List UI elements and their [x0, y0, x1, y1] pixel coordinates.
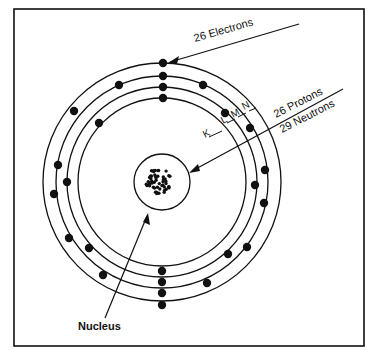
electron-dot: [203, 279, 211, 287]
electron-dot: [246, 124, 254, 132]
electron-dot: [50, 190, 58, 198]
electron-dot: [65, 234, 73, 242]
electron-dot: [158, 278, 166, 286]
electron-dot: [159, 94, 167, 102]
electron-dot: [224, 250, 232, 258]
electron-dot: [95, 119, 103, 127]
arrowhead-icon: [168, 56, 179, 64]
electron-dot: [115, 81, 123, 89]
electron-dot: [199, 81, 207, 89]
electron-dot: [243, 243, 251, 251]
electron-dot: [159, 72, 167, 80]
electron-dot: [261, 166, 269, 174]
electron-dot: [158, 301, 166, 309]
nucleus-label: Nucleus: [78, 320, 121, 332]
electron-dot: [159, 83, 167, 91]
electrons-callout: 26 Electrons: [168, 15, 299, 64]
electron-dot: [99, 271, 107, 279]
atom-diagram: 26 Electrons 26 Protons 29 Neutrons Nucl…: [0, 0, 377, 350]
arrowhead-icon: [189, 164, 200, 173]
electron-dot: [251, 181, 259, 189]
electron-dot: [260, 199, 268, 207]
electron-dot: [159, 59, 167, 67]
nucleon-cluster: [145, 169, 172, 196]
electron-dot: [85, 244, 93, 252]
shell-m-label: M: [229, 106, 242, 120]
electron-dot: [63, 178, 71, 186]
shell-k-label: K: [201, 127, 212, 140]
electron-dot: [158, 267, 166, 275]
nucleus-callout: Nucleus: [78, 213, 150, 332]
electron-dot: [158, 289, 166, 297]
electron-dot: [54, 161, 62, 169]
electron-dot: [70, 107, 78, 115]
